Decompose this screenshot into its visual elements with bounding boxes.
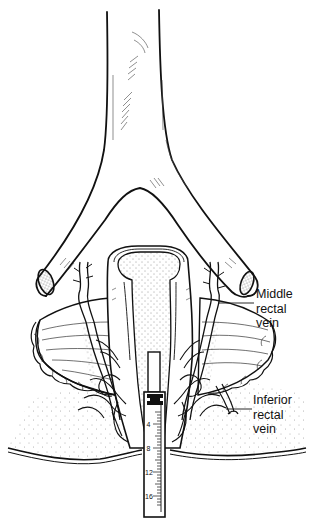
label-inferior-line3: vein [253,422,292,437]
label-inferior-line2: rectal [253,408,292,423]
label-middle-rectal-vein: Middle rectal vein [256,287,293,331]
trunk-shading [60,32,236,270]
scale-mark-12: 12 [145,469,153,476]
label-inferior-rectal-vein: Inferior rectal vein [253,393,292,437]
scale-mark-4: 4 [147,421,151,428]
scale-mark-16: 16 [145,493,153,500]
label-middle-line3: vein [256,316,293,331]
scale-mark-8: 8 [147,445,151,452]
right-vein-cut-end [237,270,256,297]
label-middle-line1: Middle [256,287,293,302]
label-inferior-line1: Inferior [253,393,292,408]
anatomical-illustration: 4 8 12 16 [0,0,310,525]
label-middle-line2: rectal [256,302,293,317]
